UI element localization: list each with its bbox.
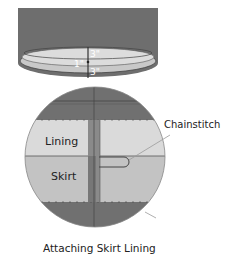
label-1in: 1"	[74, 59, 84, 69]
seam-point	[87, 61, 90, 64]
label-chainstitch: Chainstitch	[164, 119, 220, 130]
upper-dark-fabric	[20, 86, 170, 120]
diagram-caption: Attaching Skirt Lining	[43, 242, 156, 254]
lower-dark-fabric	[20, 202, 170, 232]
label-skirt: Skirt	[51, 170, 77, 183]
lower-leader	[145, 212, 156, 218]
detail-magnifier	[20, 85, 170, 232]
label-3in-bottom: 3"	[90, 67, 100, 77]
drum-overview	[18, 8, 158, 78]
label-lining: Lining	[45, 135, 78, 148]
label-3in-top: 3"	[90, 49, 100, 59]
skirt-lining-diagram: 3" 1" 3" Lining Skirt Chainstitch Attach…	[0, 0, 227, 261]
